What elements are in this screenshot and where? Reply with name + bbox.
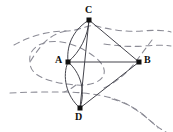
node-label-D: D [75,112,82,122]
diagram-svg [0,0,173,132]
contour-upper-branch [104,44,171,46]
edge-C-D [80,20,89,108]
node-D[interactable] [78,106,83,111]
contour-lower-band [10,92,158,128]
node-label-C: C [85,5,92,15]
edge-group [65,20,139,108]
node-label-A: A [55,55,62,65]
figure-canvas: C A B D [0,0,173,132]
node-label-B: B [144,55,151,65]
contour-lower-right-tail [112,99,166,132]
node-B[interactable] [137,60,142,65]
node-A[interactable] [66,60,71,65]
node-C[interactable] [87,18,92,23]
edge-C-B [89,20,139,62]
contour-upper-band [14,26,171,45]
contour-group [10,26,171,132]
edge-B-D [80,62,139,108]
contour-blob-lower-tie [64,85,76,92]
